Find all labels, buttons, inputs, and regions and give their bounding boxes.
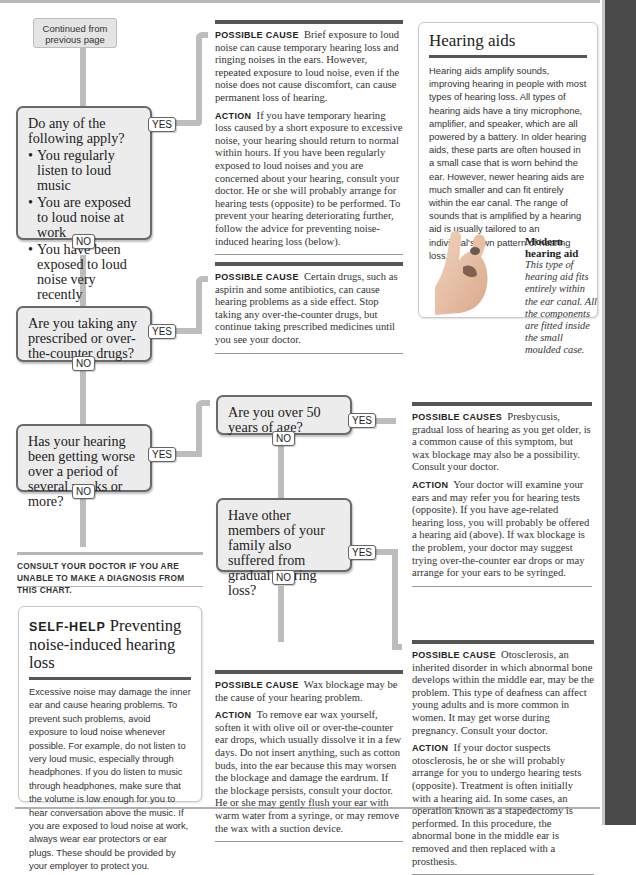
question-2-text: Are you taking any prescribed or over-th… xyxy=(28,316,140,361)
outcome-rule xyxy=(215,670,403,674)
yes-tag: YES xyxy=(148,324,176,339)
self-help-label: Self-help xyxy=(29,620,106,634)
action-label: Action xyxy=(215,111,251,121)
hearing-aid-caption: Modern hearing aid This type of hearing … xyxy=(525,235,597,357)
cause-label: Possible cause xyxy=(215,680,299,690)
question-4-box: Are you over 50 years of age? xyxy=(216,395,352,435)
cause-label: Possible causes xyxy=(412,412,502,422)
question-1-bullets: You regularly listen to loud music You a… xyxy=(28,148,140,302)
bullet: You regularly listen to loud music xyxy=(28,148,140,193)
action-text: Your doctor will examine your ears and m… xyxy=(412,479,589,578)
bullet: You have been exposed to loud noise very… xyxy=(28,242,140,302)
cause-text: Otosclerosis, an inherited disorder in w… xyxy=(412,649,594,736)
outcome-1: Possible cause Brief exposure to loud no… xyxy=(215,20,403,255)
consult-note: Consult your doctor if you are unable to… xyxy=(17,560,207,596)
title-rule xyxy=(29,677,191,680)
question-1-text: Do any of the following apply? xyxy=(28,116,140,146)
action-text: If you have temporary hearing loss cause… xyxy=(215,110,402,247)
outcome-rule xyxy=(412,402,592,406)
cause-text: Brief exposure to loud noise can cause t… xyxy=(215,29,399,103)
outcome-end-rule xyxy=(215,841,403,842)
no-tag: NO xyxy=(272,570,295,585)
self-help-body: Excessive noise may damage the inner ear… xyxy=(29,686,191,874)
action-text: If your doctor suspects otosclerosis, he… xyxy=(412,742,581,866)
cause-text: Certain drugs, such as aspirin and some … xyxy=(215,271,398,345)
no-tag: NO xyxy=(272,431,295,446)
yes-tag: YES xyxy=(148,117,176,132)
outcome-4: Possible cause Wax blockage may be the c… xyxy=(215,670,403,842)
no-tag: NO xyxy=(72,234,95,249)
no-tag: NO xyxy=(72,484,95,499)
action-text: To remove ear wax yourself, soften it wi… xyxy=(215,709,401,833)
outcome-2: Possible cause Certain drugs, such as as… xyxy=(215,262,403,354)
outcome-end-rule xyxy=(215,254,403,255)
yes-tag: YES xyxy=(348,413,376,428)
cause-label: Possible cause xyxy=(215,272,299,282)
self-help-box: Self-help Preventing noise-induced heari… xyxy=(18,606,202,802)
cause-label: Possible cause xyxy=(215,30,299,40)
title-rule xyxy=(429,55,587,58)
outcome-rule xyxy=(215,20,403,24)
question-5-box: Have other members of your family also s… xyxy=(216,498,352,572)
outcome-rule xyxy=(215,262,403,266)
yes-tag: YES xyxy=(348,545,376,560)
hearing-aid-hand-image xyxy=(433,227,505,315)
caption-text: This type of hearing aid fits entirely w… xyxy=(525,259,597,357)
question-2-box: Are you taking any prescribed or over-th… xyxy=(16,306,152,362)
no-tag: NO xyxy=(72,356,95,371)
action-label: Action xyxy=(215,710,251,720)
continued-from-previous-page: Continued from previous page xyxy=(33,18,117,48)
consult-rule-bottom xyxy=(17,586,203,587)
top-rule xyxy=(0,0,600,3)
hearing-aids-title: Hearing aids xyxy=(429,31,587,50)
question-1-box: Do any of the following apply? You regul… xyxy=(16,106,152,240)
action-label: Action xyxy=(412,743,448,753)
caption-title: Modern hearing aid xyxy=(525,235,597,259)
page-edge-sidebar xyxy=(602,0,636,825)
consult-rule-top xyxy=(17,552,203,555)
hearing-aids-box: Hearing aids Hearing aids amplify sounds… xyxy=(418,22,598,318)
cause-label: Possible cause xyxy=(412,650,496,660)
outcome-3: Possible causes Presbycusis, gradual los… xyxy=(412,402,592,587)
outcome-5: Possible cause Otosclerosis, an inherite… xyxy=(412,640,594,875)
outcome-rule xyxy=(412,640,594,644)
outcome-end-rule xyxy=(412,586,592,587)
action-label: Action xyxy=(412,480,448,490)
question-3-box: Has your hearing been getting worse over… xyxy=(16,424,152,492)
outcome-end-rule xyxy=(215,353,403,354)
yes-tag: YES xyxy=(148,447,176,462)
